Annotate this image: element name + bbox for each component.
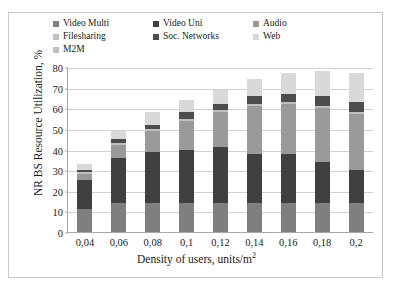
- bar-segment: [213, 147, 228, 203]
- x-tick-label: 0,1: [180, 237, 193, 248]
- bar-segment: [349, 114, 364, 170]
- stacked-bar[interactable]: [315, 71, 330, 232]
- plot-frame: 01020304050607080 0,040,060,080,10,120,1…: [67, 68, 373, 233]
- x-tick-label: 0,18: [313, 237, 331, 248]
- bar-segment: [145, 152, 160, 204]
- x-axis-title-superscript: 2: [252, 251, 256, 260]
- bar-segment: [315, 96, 330, 106]
- stacked-bar[interactable]: [77, 164, 92, 232]
- x-tick-label: 0,12: [211, 237, 229, 248]
- bar-segment: [77, 180, 92, 209]
- bar-segment: [179, 203, 194, 232]
- stacked-bar[interactable]: [145, 112, 160, 232]
- stacked-bar[interactable]: [179, 100, 194, 232]
- x-tick-label: 0,08: [144, 237, 162, 248]
- bar-group[interactable]: 0,2: [339, 68, 373, 232]
- y-tick-label: 60: [53, 104, 64, 115]
- legend-item-label: Web: [263, 31, 280, 42]
- bar-segment: [145, 131, 160, 152]
- legend-item[interactable]: Audio: [253, 17, 353, 30]
- y-tick-label: 50: [53, 124, 64, 135]
- legend-item[interactable]: Soc. Networks: [153, 30, 253, 43]
- bar-group[interactable]: 0,12: [204, 68, 238, 232]
- chart-legend: Video MultiVideo UniAudioFilesharingSoc.…: [53, 17, 353, 56]
- legend-item-label: Video Multi: [63, 18, 109, 29]
- bar-segment: [349, 170, 364, 203]
- legend-item[interactable]: Video Multi: [53, 17, 153, 30]
- bar-segment: [179, 100, 194, 112]
- y-tick-label: 80: [53, 63, 64, 74]
- bar-segment: [315, 71, 330, 96]
- legend-swatch-icon: [53, 34, 59, 40]
- bar-segment: [281, 94, 296, 102]
- x-tick-label: 0,16: [279, 237, 297, 248]
- legend-swatch-icon: [153, 21, 159, 27]
- bar-segment: [247, 96, 262, 104]
- bar-group[interactable]: 0,16: [271, 68, 305, 232]
- y-tick-label: 30: [53, 166, 64, 177]
- bar-segment: [349, 203, 364, 232]
- legend-swatch-icon: [253, 34, 259, 40]
- legend-item-label: Soc. Networks: [163, 31, 219, 42]
- bar-segment: [349, 102, 364, 112]
- y-axis-title: NR BS Resource Utilization, %: [32, 28, 44, 218]
- y-tick-mark: [65, 233, 68, 234]
- bar-segment: [281, 73, 296, 94]
- bar-segment: [281, 203, 296, 232]
- x-axis-title-text: Density of users, units/m: [137, 253, 252, 265]
- y-tick-label: 20: [53, 186, 64, 197]
- legend-item-label: Filesharing: [63, 31, 106, 42]
- legend-item[interactable]: Filesharing: [53, 30, 153, 43]
- bar-segment: [179, 150, 194, 204]
- bar-segment: [213, 90, 228, 104]
- bar-segment: [315, 108, 330, 162]
- bar-group[interactable]: 0,08: [136, 68, 170, 232]
- legend-item-label: M2M: [63, 44, 85, 55]
- y-tick-label: 10: [53, 207, 64, 218]
- stacked-bar[interactable]: [349, 73, 364, 232]
- bar-segment: [111, 145, 126, 157]
- x-tick-label: 0,2: [350, 237, 363, 248]
- bar-segment: [281, 104, 296, 154]
- x-tick-label: 0,14: [245, 237, 263, 248]
- y-tick-label: 70: [53, 83, 64, 94]
- bar-group[interactable]: 0,18: [305, 68, 339, 232]
- bar-segment: [247, 79, 262, 96]
- bar-segment: [349, 73, 364, 102]
- bar-segment: [179, 121, 194, 150]
- bar-segment: [145, 203, 160, 232]
- bar-segment: [111, 158, 126, 203]
- legend-swatch-icon: [253, 21, 259, 27]
- bar-segment: [111, 203, 126, 232]
- bar-segment: [315, 203, 330, 232]
- bar-segment: [111, 131, 126, 139]
- x-tick-label: 0,04: [76, 237, 94, 248]
- legend-swatch-icon: [53, 47, 59, 53]
- legend-item[interactable]: Web: [253, 30, 353, 43]
- stacked-bar[interactable]: [111, 131, 126, 232]
- chart-figure: Video MultiVideo UniAudioFilesharingSoc.…: [8, 12, 383, 278]
- stacked-bar[interactable]: [281, 73, 296, 232]
- bar-series-container: 0,040,060,080,10,120,140,160,180,2: [68, 68, 373, 232]
- legend-item[interactable]: M2M: [53, 43, 153, 56]
- bar-segment: [315, 162, 330, 203]
- stacked-bar[interactable]: [213, 90, 228, 232]
- bar-group[interactable]: 0,04: [68, 68, 102, 232]
- legend-swatch-icon: [53, 21, 59, 27]
- bar-segment: [213, 203, 228, 232]
- legend-item-label: Audio: [263, 18, 287, 29]
- bar-segment: [213, 112, 228, 147]
- legend-item[interactable]: Video Uni: [153, 17, 253, 30]
- bar-segment: [281, 154, 296, 204]
- bar-segment: [145, 112, 160, 124]
- bar-group[interactable]: 0,1: [170, 68, 204, 232]
- legend-swatch-icon: [153, 34, 159, 40]
- x-tick-label: 0,06: [110, 237, 128, 248]
- stacked-bar[interactable]: [247, 79, 262, 232]
- bar-segment: [247, 203, 262, 232]
- bar-group[interactable]: 0,06: [102, 68, 136, 232]
- bar-segment: [247, 106, 262, 153]
- plot-area: 01020304050607080 0,040,060,080,10,120,1…: [67, 68, 373, 233]
- bar-segment: [247, 154, 262, 204]
- bar-group[interactable]: 0,14: [237, 68, 271, 232]
